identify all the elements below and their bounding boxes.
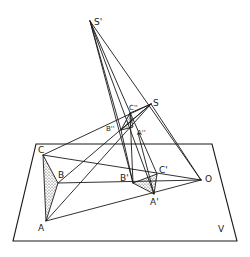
rays-from-s [43,104,201,221]
rays-from-s-prime [90,21,201,194]
triangle-abc [43,155,58,221]
label-a-prime: A' [150,197,159,207]
projection-diagram: S' S C'' B'' A'' C B A B' C' A' O V [0,0,250,257]
label-s-prime: S' [94,17,102,27]
label-s: S [153,98,159,108]
label-c-prime: C' [159,165,168,175]
label-plane-v: V [218,224,225,234]
label-b-dprime: B'' [106,125,115,133]
label-a: A [38,223,45,233]
label-c: C [38,145,44,155]
label-b-prime: B' [120,173,129,183]
label-o: O [205,174,212,184]
lines-to-o [43,155,201,221]
label-a-dprime: A'' [137,129,146,137]
label-b: B [58,170,64,180]
label-c-dprime: C'' [129,104,138,112]
